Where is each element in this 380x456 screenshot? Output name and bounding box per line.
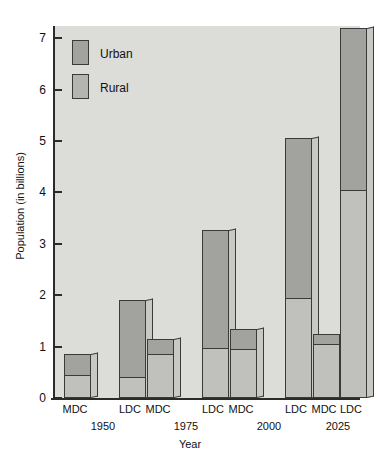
bar-front-face bbox=[230, 329, 257, 398]
x-group-label-1975: 1975 bbox=[156, 420, 216, 432]
bar-front-face bbox=[340, 28, 367, 398]
x-category-label-7: LDC bbox=[329, 403, 373, 415]
bar-segment-urban bbox=[286, 139, 311, 298]
y-tick-label-6: 6 bbox=[30, 85, 46, 95]
bar-segment-urban bbox=[341, 29, 366, 191]
x-group-label-2025: 2025 bbox=[308, 420, 368, 432]
bar-front-face bbox=[202, 230, 229, 398]
x-category-label-4: MDC bbox=[219, 403, 263, 415]
bar-2025-LDC bbox=[340, 28, 367, 398]
bar-front-face bbox=[285, 138, 312, 398]
bar-1950-MDC bbox=[64, 354, 91, 398]
bar-side-face bbox=[257, 327, 264, 398]
x-category-label-2: MDC bbox=[136, 403, 180, 415]
bar-side-face bbox=[91, 353, 98, 398]
y-tick-4 bbox=[53, 191, 62, 193]
x-category-label-0: MDC bbox=[53, 403, 97, 415]
bar-front-face bbox=[313, 334, 340, 398]
y-tick-label-0: 0 bbox=[30, 393, 46, 403]
bar-segment-urban bbox=[120, 301, 145, 378]
y-tick-3 bbox=[53, 243, 62, 245]
bar-1950-LDC bbox=[119, 300, 146, 398]
y-tick-0 bbox=[53, 397, 62, 399]
y-tick-label-3: 3 bbox=[30, 239, 46, 249]
y-tick-5 bbox=[53, 140, 62, 142]
bar-segment-urban bbox=[148, 340, 173, 355]
bar-1975-MDC bbox=[147, 339, 174, 398]
bar-segment-urban bbox=[314, 335, 339, 345]
bar-1975-LDC bbox=[202, 230, 229, 398]
x-group-label-1950: 1950 bbox=[73, 420, 133, 432]
bar-segment-urban bbox=[65, 355, 90, 376]
bar-side-face bbox=[174, 337, 181, 398]
bar-2000-MDC bbox=[230, 329, 257, 398]
y-tick-label-4: 4 bbox=[30, 187, 46, 197]
y-tick-label-1: 1 bbox=[30, 342, 46, 352]
y-tick-1 bbox=[53, 346, 62, 348]
bar-side-face bbox=[367, 26, 374, 398]
bar-front-face bbox=[119, 300, 146, 398]
bar-2000-LDC bbox=[285, 138, 312, 398]
bar-segment-urban bbox=[231, 330, 256, 351]
y-tick-7 bbox=[53, 37, 62, 39]
x-axis-title: Year bbox=[0, 438, 380, 450]
legend-label-urban: Urban bbox=[100, 47, 133, 61]
y-tick-label-2: 2 bbox=[30, 290, 46, 300]
y-tick-label-5: 5 bbox=[30, 136, 46, 146]
bar-segment-urban bbox=[203, 231, 228, 349]
x-group-label-2000: 2000 bbox=[239, 420, 299, 432]
bar-front-face bbox=[64, 354, 91, 398]
y-axis-title: Population (in billions) bbox=[14, 106, 26, 306]
y-tick-label-7: 7 bbox=[30, 33, 46, 43]
legend-label-rural: Rural bbox=[100, 81, 129, 95]
bar-2025-MDC bbox=[313, 334, 340, 398]
bar-front-face bbox=[147, 339, 174, 398]
legend-swatch-rural bbox=[72, 74, 89, 99]
y-tick-6 bbox=[53, 89, 62, 91]
y-tick-2 bbox=[53, 294, 62, 296]
population-bar-chart: 76543210 Population (in billions) MDCLDC… bbox=[0, 0, 380, 456]
x-axis-line bbox=[51, 398, 360, 400]
legend-swatch-urban bbox=[72, 40, 89, 65]
